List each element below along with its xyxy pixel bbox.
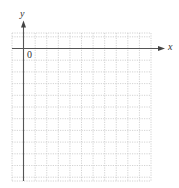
grid-lines — [12, 33, 151, 181]
origin-label: 0 — [27, 50, 32, 60]
x-axis-arrow-icon — [158, 46, 165, 51]
y-axis-label: y — [20, 9, 24, 19]
y-axis-arrow-icon — [21, 21, 26, 28]
x-axis-label: x — [168, 42, 172, 52]
grid-diagram — [0, 0, 179, 188]
